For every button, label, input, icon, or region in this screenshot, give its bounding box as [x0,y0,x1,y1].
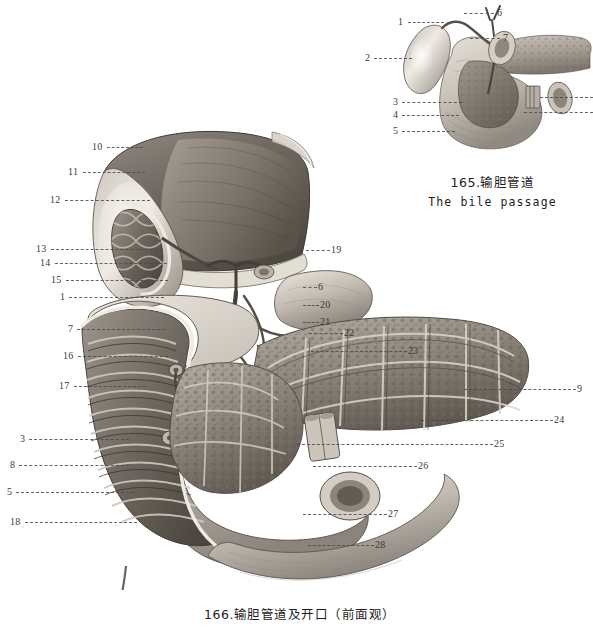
main-leader-9 [464,389,576,390]
main-label-9: 9 [577,384,582,394]
main-label-1: 1 [60,292,65,302]
main-label-25: 25 [494,439,505,449]
inset-leader-5 [402,131,455,132]
main-leader-5 [16,492,134,493]
inset-leader-4 [402,115,459,116]
inset-caption-en: The bile passage [405,195,580,209]
main-label-13: 13 [36,244,47,254]
inset-caption: 165.输胆管道 The bile passage [405,172,580,209]
main-label-28: 28 [375,540,386,550]
main-caption-cn: 166.输胆管道及开口（前面观） [190,604,410,623]
inset-leader-7 [470,38,500,39]
main-leader-14 [55,263,167,264]
main-label-7: 7 [68,324,73,334]
main-label-24: 24 [554,415,565,425]
inset-label-4: 4 [393,110,398,120]
main-leader-23 [311,351,407,352]
main-leader-10 [107,147,143,148]
main-leader-11 [83,172,145,173]
main-label-20: 20 [320,300,331,310]
main-label-3: 3 [20,434,25,444]
main-label-23: 23 [408,346,419,356]
main-label-19: 19 [331,245,342,255]
main-label-27: 27 [388,509,399,519]
main-label-22: 22 [344,328,355,338]
main-leader-16 [78,356,168,357]
main-leader-3 [29,439,129,440]
main-label-18: 18 [10,517,21,527]
main-leader-22 [309,333,343,334]
inset-leader-2 [374,58,412,59]
main-leader-7 [77,329,165,330]
inset-leader-3 [402,102,462,103]
inset-caption-cn: 165.输胆管道 [405,172,580,191]
inset-label-6: 6 [497,8,502,18]
main-leader-13 [51,249,163,250]
main-leader-25 [297,444,493,445]
main-leader-17 [74,386,146,387]
main-label-8: 8 [10,460,15,470]
inset-label-5: 5 [393,126,398,136]
main-leader-28 [308,545,374,546]
inset-leader-1 [408,22,444,23]
main-leader-1 [69,297,164,298]
inset-leader-edge-a [540,97,593,98]
main-leader-15 [66,280,168,281]
main-leader-6 [303,287,317,288]
main-label-16: 16 [63,351,74,361]
main-leader-24 [421,420,553,421]
main-label-6: 6 [318,282,323,292]
inset-leader-6 [464,13,494,14]
main-leader-8 [19,465,129,466]
inset-label-2: 2 [365,53,370,63]
inset-label-3: 3 [393,97,398,107]
main-label-21: 21 [320,317,331,327]
inset-label-1: 1 [398,17,403,27]
main-label-5: 5 [7,487,12,497]
main-leader-18 [25,522,137,523]
main-label-17: 17 [59,381,70,391]
main-caption: 166.输胆管道及开口（前面观） [190,604,410,623]
main-label-10: 10 [92,142,103,152]
main-label-11: 11 [68,167,78,177]
main-label-26: 26 [418,461,429,471]
main-label-14: 14 [40,258,51,268]
main-leader-27 [303,514,387,515]
main-leader-21 [303,322,319,323]
main-label-12: 12 [50,195,61,205]
main-leader-20 [303,305,319,306]
inset-label-7: 7 [503,33,508,43]
main-label-15: 15 [51,275,62,285]
main-leader-19 [306,250,330,251]
main-leader-26 [313,466,417,467]
inset-leader-edge-b [524,112,593,113]
main-leader-12 [65,200,150,201]
